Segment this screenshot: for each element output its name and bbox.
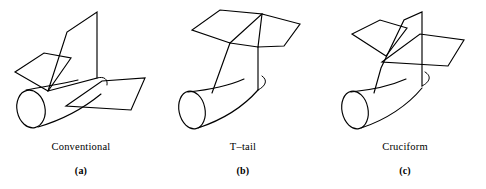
- caption-tag-conventional: (a): [0, 166, 162, 176]
- vertical-fin: [212, 43, 258, 93]
- cruciform-tail-drawing: [324, 0, 486, 140]
- fuselage: [175, 79, 258, 131]
- caption-tag-t-tail: (b): [162, 166, 324, 176]
- figure-panel-conventional: Conventional (a): [0, 0, 162, 189]
- t-tail-drawing: [162, 0, 324, 140]
- fin-fuselage-fairing: [258, 76, 265, 90]
- horizontal-stabilizer-right: [382, 34, 464, 66]
- horizontal-stabilizer-left: [192, 10, 262, 43]
- tail-configuration-figure: Conventional (a): [0, 0, 486, 189]
- horizontal-stabilizer-left: [352, 20, 407, 56]
- horizontal-stabilizer-left: [15, 53, 71, 91]
- fuselage: [338, 79, 422, 131]
- figure-panel-t-tail: T–tail (b): [162, 0, 324, 189]
- caption-cruciform: Cruciform: [324, 142, 486, 153]
- caption-conventional: Conventional: [0, 142, 162, 153]
- caption-tag-cruciform: (c): [324, 166, 486, 176]
- horizontal-stabilizer-right: [258, 14, 300, 47]
- caption-t-tail: T–tail: [162, 142, 324, 153]
- figure-panel-cruciform: Cruciform (c): [324, 0, 486, 189]
- fin-fuselage-fairing: [422, 72, 429, 86]
- conventional-tail-drawing: [0, 0, 162, 140]
- fuselage: [13, 80, 101, 130]
- vertical-fin: [48, 12, 97, 91]
